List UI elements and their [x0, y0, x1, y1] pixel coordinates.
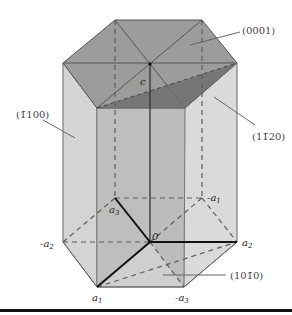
label-bottom-prism-plane: (101̄0): [230, 270, 263, 281]
hexagonal-crystal-diagram: (0001) (1̄100) (11̄20) (101̄0) c 0 a1 a2…: [0, 0, 292, 315]
label-c-axis: c: [140, 76, 146, 87]
label-a1: a1: [92, 292, 102, 305]
label-right-prism-plane: (11̄20): [252, 131, 285, 142]
label-a2: a2: [242, 237, 253, 250]
label-basal-plane: (0001): [242, 25, 275, 36]
label-origin: 0: [152, 231, 159, 242]
label-left-prism-plane: (1̄100): [16, 109, 49, 120]
bottom-rule: [0, 309, 292, 312]
label-neg-a3: -a3: [175, 292, 189, 305]
label-neg-a2: -a2: [40, 238, 54, 251]
top-center-point: [148, 62, 151, 65]
